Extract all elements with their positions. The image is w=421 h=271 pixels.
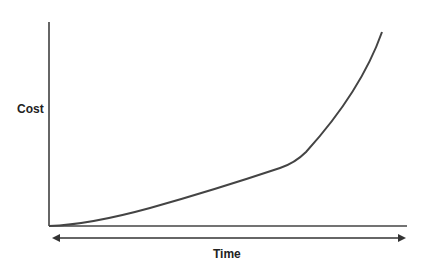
cost-time-chart bbox=[0, 0, 421, 271]
y-axis-label: Cost bbox=[17, 102, 44, 116]
x-axis-label: Time bbox=[213, 247, 241, 261]
cost-curve bbox=[49, 32, 382, 226]
